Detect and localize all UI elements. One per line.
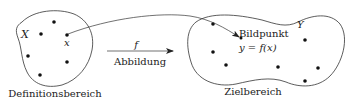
domain-point	[52, 20, 56, 24]
domain-point	[65, 60, 69, 64]
function-caption: Abbildung	[113, 56, 167, 67]
image-caption: Bildpunkt	[239, 28, 289, 39]
codomain-caption: Zielbereich	[224, 86, 282, 97]
codomain-point	[224, 63, 228, 67]
codomain-point	[316, 66, 320, 70]
codomain-point	[276, 65, 280, 69]
codomain-set-label: Y	[297, 19, 305, 30]
domain-points	[26, 20, 69, 77]
function-symbol: f	[133, 39, 140, 50]
domain-point	[39, 32, 43, 36]
image-formula: y = f(x)	[238, 42, 277, 53]
domain-element-label: x	[64, 37, 70, 48]
domain-set-label: X	[20, 28, 30, 41]
mapping-curve-arrow	[68, 15, 239, 37]
codomain-point	[303, 79, 307, 83]
domain-point	[26, 54, 30, 58]
domain-caption: Definitionsbereich	[8, 88, 102, 99]
domain-point	[38, 73, 42, 77]
codomain-point	[211, 50, 215, 54]
codomain-point	[303, 38, 307, 42]
mapping-diagram: X x Definitionsbereich f Abbildung Y Bil…	[0, 0, 359, 106]
